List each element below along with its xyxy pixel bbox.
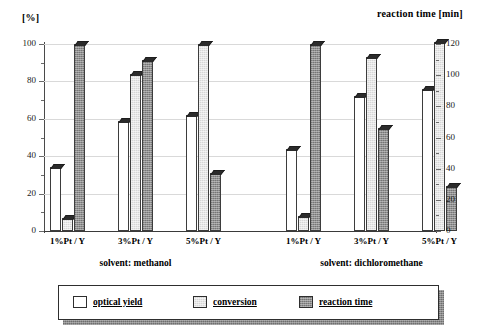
bar-top-cap — [210, 170, 225, 175]
bar-optical-yield — [422, 89, 433, 231]
gridline — [44, 44, 436, 45]
legend-label-optical-yield: optical yield — [93, 297, 142, 307]
bar-optical-yield — [286, 149, 297, 231]
legend-box: optical yield conversion reaction time — [58, 285, 439, 320]
bar-top-cap — [378, 125, 393, 130]
y-axis-tick-label: 0 — [10, 225, 36, 235]
bar-reaction-time — [378, 128, 389, 231]
right-axis-tick-label: 40 — [446, 163, 472, 173]
legend-item-optical-yield[interactable]: optical yield — [73, 296, 142, 308]
legend-item-conversion[interactable]: conversion — [193, 296, 257, 308]
solvent-group-label: solvent: dichloromethane — [282, 258, 462, 268]
y-axis-minor-tick — [41, 212, 44, 213]
x-axis-category-label: 3%Pt / Y — [106, 236, 166, 246]
right-axis-tick — [436, 138, 441, 139]
bar-optical-yield — [118, 121, 129, 231]
x-axis-category-label: 5%Pt / Y — [174, 236, 234, 246]
right-axis-minor-tick — [436, 60, 439, 61]
y-axis-tick — [39, 231, 44, 232]
y-axis-minor-tick — [41, 138, 44, 139]
y-axis-tick — [39, 156, 44, 157]
y-axis-tick-label: 80 — [10, 75, 36, 85]
legend-swatch-conversion-icon — [193, 296, 207, 308]
right-axis-minor-tick — [436, 91, 439, 92]
bar-top-cap — [366, 54, 381, 59]
bar-conversion — [198, 44, 209, 231]
x-axis-category-label: 1%Pt / Y — [38, 236, 98, 246]
right-axis-minor-tick — [436, 184, 439, 185]
gridline — [44, 119, 436, 120]
chart-figure: [%] reaction time [min] 0204060801000204… — [0, 0, 482, 333]
y-axis-minor-tick — [41, 175, 44, 176]
bar-conversion — [130, 74, 141, 231]
bar-top-cap — [198, 41, 213, 46]
bar-conversion — [62, 218, 73, 231]
x-axis-category-label: 3%Pt / Y — [342, 236, 402, 246]
right-axis-tick-label: 60 — [446, 132, 472, 142]
bar-optical-yield — [354, 96, 365, 231]
legend-swatch-reaction-time-icon — [299, 296, 313, 308]
legend-label-conversion: conversion — [213, 297, 257, 307]
gridline — [44, 81, 436, 82]
right-axis-tick-label: 20 — [446, 194, 472, 204]
right-axis-tick — [436, 200, 441, 201]
legend-swatch-optical-yield-icon — [73, 296, 87, 308]
bar-top-cap — [286, 146, 301, 151]
solvent-group-label: solvent: methanol — [46, 258, 226, 268]
y-axis-minor-tick — [41, 100, 44, 101]
right-axis-tick-label: 120 — [446, 38, 472, 48]
x-axis-baseline — [44, 231, 437, 232]
y-axis-tick — [39, 119, 44, 120]
right-axis-minor-tick — [436, 153, 439, 154]
right-axis-tick — [436, 231, 441, 232]
bar-reaction-time — [142, 60, 153, 231]
right-axis-tick-label: 0 — [446, 225, 472, 235]
plot-area — [44, 44, 436, 231]
right-axis-tick — [436, 106, 441, 107]
right-axis-title: reaction time [min] — [377, 8, 463, 19]
legend-item-reaction-time[interactable]: reaction time — [299, 296, 372, 308]
bar-top-cap — [310, 41, 325, 46]
y-axis-minor-tick — [41, 63, 44, 64]
bar-top-cap — [142, 57, 157, 62]
right-axis-tick — [436, 44, 441, 45]
x-axis-category-label: 1%Pt / Y — [274, 236, 334, 246]
left-axis-title: [%] — [22, 12, 39, 23]
legend-label-reaction-time: reaction time — [319, 297, 372, 307]
bar-top-cap — [74, 41, 89, 46]
bar-top-cap — [446, 183, 461, 188]
bar-top-cap — [50, 164, 65, 169]
y-axis-tick-label: 20 — [10, 188, 36, 198]
bar-optical-yield — [50, 167, 61, 231]
y-axis-tick-label: 40 — [10, 150, 36, 160]
right-axis-minor-tick — [436, 122, 439, 123]
y-axis-tick-label: 100 — [10, 38, 36, 48]
bar-optical-yield — [186, 115, 197, 231]
y-axis-tick — [39, 81, 44, 82]
bar-reaction-time — [210, 173, 221, 231]
bar-conversion — [298, 216, 309, 231]
right-axis-tick-label: 100 — [446, 69, 472, 79]
bar-reaction-time — [74, 44, 85, 231]
right-axis-minor-tick — [436, 215, 439, 216]
y-axis-tick — [39, 194, 44, 195]
bar-reaction-time — [310, 44, 321, 231]
y-axis-tick — [39, 44, 44, 45]
right-axis-tick-label: 80 — [446, 100, 472, 110]
x-axis-category-label: 5%Pt / Y — [410, 236, 470, 246]
bar-conversion — [366, 57, 377, 231]
y-axis-tick-label: 60 — [10, 113, 36, 123]
right-axis-tick — [436, 169, 441, 170]
right-axis-tick — [436, 75, 441, 76]
